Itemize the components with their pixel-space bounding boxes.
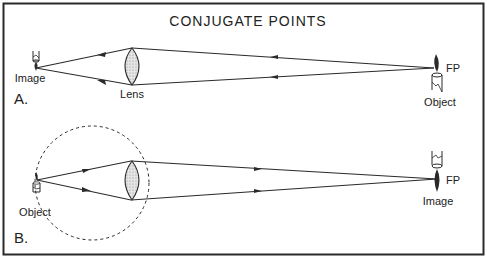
panel-b: Object B. FP Image xyxy=(14,126,460,246)
object-label: Object xyxy=(424,96,456,108)
arrow-left-icon xyxy=(270,55,278,59)
panel-b-label: B. xyxy=(14,229,28,246)
fp-label: FP xyxy=(446,174,460,186)
panel-a: Lens Image A. FP Object xyxy=(14,48,460,108)
object-label: Object xyxy=(19,206,51,218)
panel-a-label: A. xyxy=(14,90,28,107)
arrow-right-icon xyxy=(254,167,262,171)
inverted-candle-icon xyxy=(432,151,442,192)
arrow-left-icon xyxy=(97,80,106,85)
image-label: Image xyxy=(423,195,454,207)
conjugate-points-diagram: CONJUGATE POINTS Lens Image A. xyxy=(0,0,487,258)
candle-icon xyxy=(432,54,442,92)
image-label: Image xyxy=(15,72,46,84)
border xyxy=(4,4,484,255)
arrow-right-icon xyxy=(82,169,91,173)
diagram-frame: CONJUGATE POINTS Lens Image A. xyxy=(0,0,487,258)
lens-icon xyxy=(125,48,139,85)
lens-icon xyxy=(125,161,139,200)
arrow-left-icon xyxy=(270,75,278,79)
diagram-title: CONJUGATE POINTS xyxy=(169,13,326,29)
fp-label: FP xyxy=(446,62,460,74)
candle-icon xyxy=(33,172,40,192)
arrow-right-icon xyxy=(254,189,262,193)
lens-label: Lens xyxy=(120,88,144,100)
